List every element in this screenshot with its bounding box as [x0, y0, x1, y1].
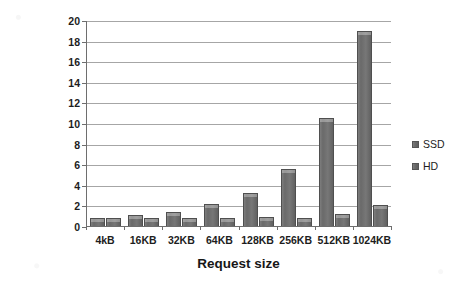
bar-group: [315, 21, 353, 227]
bar-group: [239, 21, 277, 227]
y-tick-label: 14: [50, 78, 80, 88]
bar-group: [353, 21, 391, 227]
y-tick-label: 10: [50, 119, 80, 129]
bar-group: [86, 21, 124, 227]
bar-highlight: [374, 206, 387, 209]
y-tick-mark: [82, 186, 86, 187]
bar-highlight: [167, 213, 180, 216]
x-tick-mark: [315, 226, 316, 230]
x-tick-mark: [391, 226, 392, 230]
bar-ssd-512kb: [319, 118, 334, 227]
y-tick-mark: [82, 145, 86, 146]
y-axis-tick-labels: 02468101214161820: [48, 21, 80, 227]
y-tick-label: 6: [50, 160, 80, 170]
legend-swatch-icon: [412, 141, 419, 148]
x-axis-title: Request size: [86, 256, 391, 271]
chart-legend: SSDHD: [412, 136, 457, 180]
y-tick-mark: [82, 165, 86, 166]
bar-highlight: [205, 205, 218, 208]
bar-hd-1024kb: [373, 205, 388, 227]
bar-ssd-32kb: [166, 212, 181, 227]
legend-item-hd[interactable]: HD: [412, 158, 457, 175]
y-tick-label: 20: [50, 16, 80, 26]
x-tick-label-1024kb: 1024KB: [349, 234, 395, 247]
bar-ssd-256kb: [281, 169, 296, 227]
x-tick-mark: [162, 226, 163, 230]
y-tick-label: 4: [50, 181, 80, 191]
y-tick-mark: [82, 83, 86, 84]
bar-group: [124, 21, 162, 227]
bar-highlight: [91, 219, 104, 222]
bar-highlight: [336, 215, 349, 218]
bar-group: [200, 21, 238, 227]
plot-area: [86, 21, 391, 226]
y-tick-mark: [82, 62, 86, 63]
y-tick-mark: [82, 21, 86, 22]
x-tick-mark: [200, 226, 201, 230]
bar-chart: Standard response time 02468101214161820…: [0, 0, 459, 289]
bar-highlight: [358, 32, 371, 35]
bar-group: [277, 21, 315, 227]
legend-item-ssd[interactable]: SSD: [412, 136, 457, 153]
y-tick-label: 8: [50, 140, 80, 150]
bar-highlight: [129, 216, 142, 219]
bar-highlight: [320, 119, 333, 122]
x-tick-mark: [277, 226, 278, 230]
bar-highlight: [244, 194, 257, 197]
y-tick-mark: [82, 124, 86, 125]
y-tick-mark: [82, 42, 86, 43]
bar-group: [162, 21, 200, 227]
legend-label: HD: [423, 161, 438, 172]
bar-highlight: [183, 219, 196, 222]
x-tick-mark: [124, 226, 125, 230]
x-tick-mark: [86, 226, 87, 230]
bar-hd-512kb: [335, 214, 350, 227]
bar-ssd-64kb: [204, 204, 219, 227]
x-tick-mark: [239, 226, 240, 230]
bar-highlight: [298, 219, 311, 222]
y-tick-label: 18: [50, 37, 80, 47]
y-tick-mark: [82, 103, 86, 104]
y-tick-label: 16: [50, 57, 80, 67]
y-tick-label: 2: [50, 201, 80, 211]
bar-highlight: [107, 219, 120, 222]
y-tick-label: 0: [50, 222, 80, 232]
y-tick-label: 12: [50, 98, 80, 108]
bar-highlight: [145, 219, 158, 222]
x-axis-tick-labels: 4kB16KB32KB64KB128KB256KB512KB1024KB: [86, 234, 391, 250]
bar-highlight: [260, 218, 273, 221]
legend-swatch-icon: [412, 163, 419, 170]
bar-highlight: [221, 219, 234, 222]
bar-highlight: [282, 170, 295, 173]
y-tick-mark: [82, 206, 86, 207]
bar-ssd-128kb: [243, 193, 258, 227]
x-tick-mark: [353, 226, 354, 230]
legend-label: SSD: [423, 139, 445, 150]
bars-layer: [86, 21, 391, 227]
bar-ssd-1024kb: [357, 31, 372, 227]
